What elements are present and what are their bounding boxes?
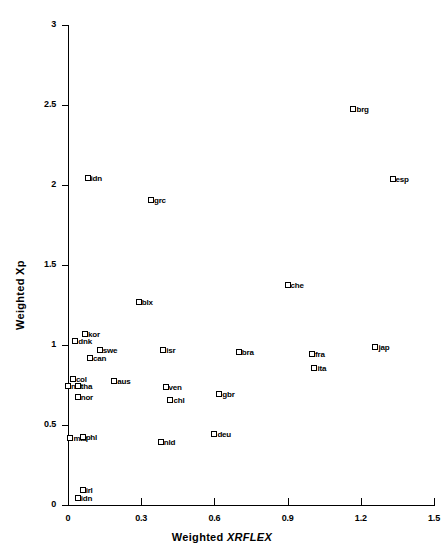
data-point-marker (236, 349, 242, 355)
data-point-marker (67, 435, 73, 441)
data-point-marker (111, 378, 117, 384)
data-point-label: che (291, 282, 304, 290)
y-tick-label: 1.5 (28, 260, 56, 269)
x-tick-label: 0.6 (194, 514, 234, 523)
data-point-marker (158, 439, 164, 445)
data-point-label: bra (242, 349, 254, 357)
y-axis-title: Weighted Xp (14, 260, 26, 330)
y-tick-label: 0 (28, 500, 56, 509)
data-point-marker (65, 383, 71, 389)
data-point-label: can (93, 355, 106, 363)
data-point-marker (87, 355, 93, 361)
y-tick-mark (62, 105, 69, 106)
data-point: phl (80, 428, 97, 446)
data-point-marker (372, 344, 378, 350)
data-point-label: jap (378, 344, 389, 352)
data-point-marker (390, 176, 396, 182)
data-point: can (87, 350, 106, 368)
data-point-marker (167, 397, 173, 403)
y-tick-label: 0.5 (28, 420, 56, 429)
data-point-marker (160, 347, 166, 353)
data-point-label: grc (154, 197, 166, 205)
data-point: idn (85, 169, 102, 187)
data-point-label: brg (356, 106, 368, 114)
x-tick-label: 0 (48, 514, 88, 523)
data-point: ita (311, 359, 326, 377)
data-point-label: idn (91, 175, 102, 183)
data-point: esp (390, 170, 409, 188)
data-point: nld (158, 433, 175, 451)
x-tick-mark (361, 498, 362, 506)
data-point-marker (216, 391, 222, 397)
data-point: grc (148, 191, 166, 209)
data-point-label: deu (217, 431, 231, 439)
data-point-label: ita (317, 365, 326, 373)
y-tick-mark (62, 425, 69, 426)
x-axis-title: Weighted XRFLEX (0, 531, 444, 543)
x-axis-title-italic: XRFLEX (227, 531, 272, 543)
x-tick-mark (68, 498, 69, 506)
data-point: chl (167, 391, 184, 409)
x-tick-mark (288, 498, 289, 506)
data-point-label: nld (164, 439, 175, 447)
data-point-label: idn (81, 495, 92, 503)
data-point: blx (136, 294, 153, 312)
x-tick-mark (434, 498, 435, 506)
data-point-marker (136, 299, 142, 305)
data-point: aus (111, 372, 130, 390)
y-tick-mark (62, 345, 69, 346)
x-axis-line (68, 505, 434, 506)
data-point-marker (211, 431, 217, 437)
data-point-marker (85, 175, 91, 181)
x-tick-label: 0.3 (121, 514, 161, 523)
data-point-label: nor (81, 394, 93, 402)
data-point-label: chl (173, 397, 184, 405)
data-point-label: isr (166, 347, 175, 355)
data-point-label: blx (142, 299, 153, 307)
data-point-marker (311, 365, 317, 371)
data-point-label: fra (315, 351, 325, 359)
data-point: isr (160, 342, 175, 360)
y-tick-label: 3 (28, 20, 56, 29)
y-tick-mark (62, 185, 69, 186)
x-tick-label: 1.5 (414, 514, 444, 523)
data-point: bra (236, 343, 254, 361)
y-tick-mark (62, 265, 69, 266)
y-tick-label: 2.5 (28, 100, 56, 109)
y-tick-label: 2 (28, 180, 56, 189)
y-tick-label: 1 (28, 340, 56, 349)
x-tick-mark (141, 498, 142, 506)
data-point-marker (72, 338, 78, 344)
data-point-marker (80, 434, 86, 440)
y-tick-mark (62, 25, 69, 26)
data-point: jap (372, 338, 389, 356)
data-point: brg (350, 100, 368, 118)
data-point: deu (211, 425, 231, 443)
data-point: gbr (216, 385, 234, 403)
x-axis-title-plain: Weighted (172, 531, 227, 543)
data-point: che (285, 276, 304, 294)
x-tick-label: 1.2 (341, 514, 381, 523)
data-point-label: phl (86, 434, 97, 442)
data-point-marker (163, 384, 169, 390)
data-point-marker (285, 282, 291, 288)
data-point-marker (75, 394, 81, 400)
data-point-marker (309, 351, 315, 357)
data-point: idn (75, 489, 92, 507)
data-point-label: gbr (222, 391, 234, 399)
x-tick-mark (214, 498, 215, 506)
data-point: dnk (72, 332, 92, 350)
x-tick-label: 0.9 (268, 514, 308, 523)
data-point-marker (350, 106, 356, 112)
data-point-label: esp (396, 176, 409, 184)
data-point-label: dnk (78, 338, 92, 346)
data-point: nor (75, 388, 93, 406)
data-point-marker (148, 197, 154, 203)
scatter-plot: 00.511.522.53 00.30.60.91.21.5 Weighted … (0, 0, 444, 558)
data-point-marker (75, 495, 81, 501)
data-point-label: aus (117, 378, 130, 386)
